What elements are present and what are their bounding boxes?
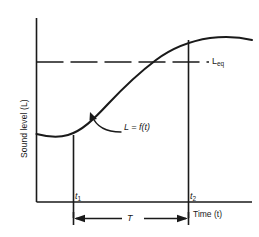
curve-equation-label: L = f(t): [124, 123, 150, 132]
duration-label: T: [127, 214, 133, 223]
y-axis-label: Sound level (L): [20, 99, 29, 158]
leq-label: Leq: [212, 57, 224, 66]
duration-label-gap-mask: [122, 212, 144, 225]
figure-canvas: [0, 0, 259, 237]
t2-label-subscript: 2: [193, 195, 197, 202]
sound-level-figure: Sound level (L) Leq L = f(t) t1 t2 Time …: [0, 0, 259, 237]
x-axis-label: Time (t): [193, 210, 222, 219]
duration-left-arrowhead: [74, 215, 85, 222]
leq-label-subscript: eq: [217, 60, 224, 67]
duration-right-arrowhead: [177, 215, 188, 222]
t1-label-subscript: 1: [78, 195, 82, 202]
t2-label: t2: [190, 192, 196, 201]
t1-label: t1: [75, 192, 81, 201]
